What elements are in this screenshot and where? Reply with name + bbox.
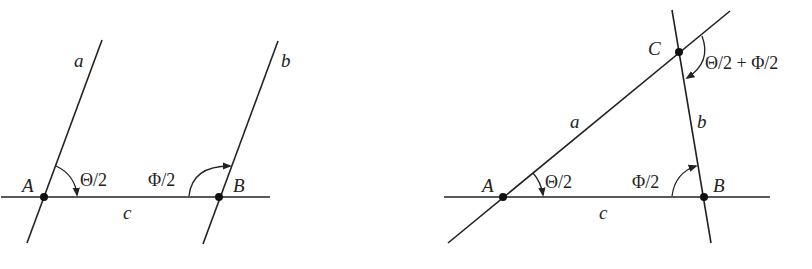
label-B-right: B	[713, 175, 725, 196]
point-C-right	[675, 48, 683, 56]
label-C-right: C	[648, 38, 661, 59]
point-B-left	[215, 193, 223, 201]
right-diagram: C Θ/2 + Φ/2 a b A Θ/2 Φ/2 B c	[444, 10, 778, 243]
angle-arc-theta-right	[533, 173, 543, 195]
label-angle-theta-right: Θ/2	[545, 172, 572, 192]
label-angle-phi-right: Φ/2	[632, 172, 659, 192]
label-A-left: A	[20, 175, 34, 196]
point-A-left	[40, 193, 48, 201]
label-a-left: a	[74, 50, 84, 71]
point-B-right	[700, 193, 708, 201]
label-angle-c-right: Θ/2 + Φ/2	[705, 53, 778, 73]
label-a-right: a	[570, 111, 580, 132]
line-b-left	[203, 41, 278, 244]
label-angle-phi-left: Φ/2	[148, 170, 175, 190]
line-a-right	[448, 11, 730, 243]
diagram-canvas: a b A B c Θ/2 Φ/2 C Θ/2 + Φ/2 a b A Θ/2 …	[0, 0, 812, 269]
point-A-right	[499, 193, 507, 201]
angle-arc-phi-right	[672, 166, 696, 196]
label-angle-theta-left: Θ/2	[80, 170, 107, 190]
label-c-left: c	[123, 202, 132, 223]
label-B-left: B	[233, 175, 245, 196]
angle-arc-theta-left	[56, 166, 77, 195]
label-b-left: b	[281, 50, 291, 71]
label-c-right: c	[599, 202, 608, 223]
left-diagram: a b A B c Θ/2 Φ/2	[1, 40, 291, 244]
line-a-left	[27, 40, 102, 243]
angle-arc-phi-left	[189, 166, 230, 196]
angle-arc-c-right	[687, 36, 705, 78]
label-b-right: b	[697, 111, 707, 132]
label-A-right: A	[480, 175, 494, 196]
